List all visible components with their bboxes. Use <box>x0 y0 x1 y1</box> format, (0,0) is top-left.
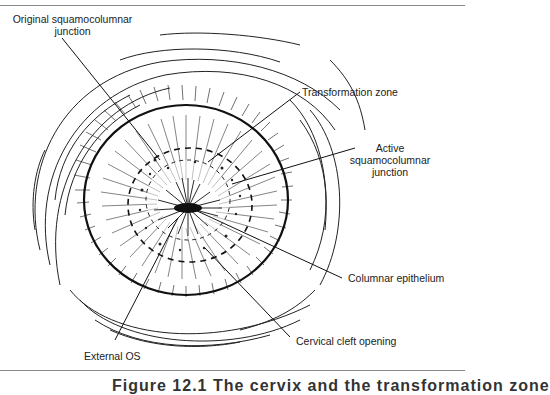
label-original-scj-line2: junction <box>10 25 135 37</box>
label-transformation-zone: Transformation zone <box>302 86 398 98</box>
bottom-rule <box>0 370 465 371</box>
label-active-scj: Active squamocolumnar junction <box>340 142 440 178</box>
label-original-scj-line1: Original squamocolumnar <box>10 13 135 25</box>
label-active-scj-line3: junction <box>340 166 440 178</box>
label-active-scj-line1: Active <box>340 142 440 154</box>
label-cervical-cleft: Cervical cleft opening <box>296 335 396 347</box>
label-active-scj-line2: squamocolumnar <box>340 154 440 166</box>
label-columnar-epithelium: Columnar epithelium <box>348 272 444 284</box>
figure-caption: Figure 12.1 The cervix and the transform… <box>112 377 550 395</box>
label-external-os: External OS <box>84 350 141 362</box>
label-original-scj: Original squamocolumnar junction <box>10 13 135 37</box>
